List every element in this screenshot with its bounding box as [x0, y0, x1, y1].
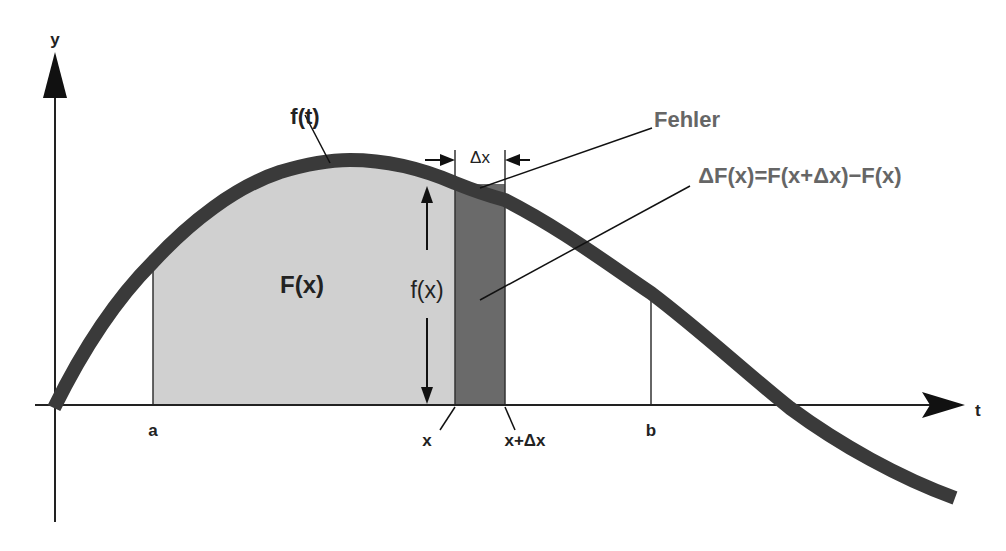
fehler-leader [480, 128, 652, 188]
dx-arrow-right-icon [440, 154, 455, 166]
strip-delta-F [455, 184, 505, 405]
tick-x-plus-dx-label: x+Δx [504, 431, 546, 450]
delta-F-label: ΔF(x)=F(x+Δx)−F(x) [698, 163, 901, 188]
y-axis-label: y [50, 30, 60, 49]
y-axis-arrow-icon [43, 52, 67, 98]
fx-height-label: f(x) [410, 277, 443, 303]
area-label: F(x) [280, 271, 324, 298]
curve-label: f(t) [290, 104, 319, 129]
tick-a-label: a [148, 421, 158, 440]
dx-width-label: Δx [470, 148, 490, 167]
fehler-label: Fehler [654, 107, 720, 132]
dx-arrow-left-icon [505, 154, 520, 166]
x-plus-dx-tick-leader [505, 407, 515, 430]
x-axis-label: t [975, 401, 981, 420]
x-tick-leader [440, 407, 455, 430]
tick-b-label: b [646, 421, 656, 440]
integral-diagram: y t f(t) F(x) f(x) Δx Fehler ΔF(x)=F(x+Δ… [0, 0, 1006, 551]
tick-x-label: x [422, 431, 432, 450]
